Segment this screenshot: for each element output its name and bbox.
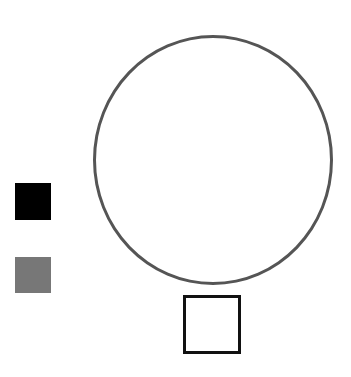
large-circle-outline (93, 35, 333, 285)
gray-square (15, 257, 51, 293)
black-square (15, 183, 51, 220)
outlined-square (183, 295, 241, 354)
